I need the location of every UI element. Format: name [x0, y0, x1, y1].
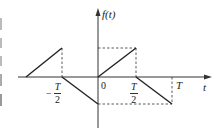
tick-label-half-period: T 2 [130, 82, 138, 105]
tick-numerator: T [130, 82, 138, 94]
origin-label: 0 [101, 81, 106, 91]
dashed-guides [62, 48, 172, 104]
x-axis-arrow-icon [204, 75, 212, 80]
x-axis-label: t [203, 82, 206, 93]
function-label: f(t) [102, 9, 115, 20]
tick-label-period: T [176, 80, 182, 91]
tick-label-neg-half-period: − T 2 [46, 82, 61, 105]
y-axis-arrow-icon [96, 8, 101, 16]
tick-denominator: 2 [131, 94, 136, 105]
tick-numerator: T [54, 82, 62, 94]
cropped-text-fragment [0, 16, 4, 116]
tick-denominator: 2 [55, 94, 60, 105]
minus-sign: − [46, 89, 52, 99]
